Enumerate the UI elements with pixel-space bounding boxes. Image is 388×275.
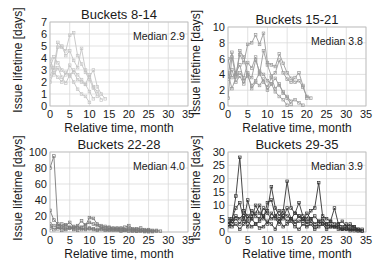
x-tick-label: 0 (225, 234, 231, 246)
x-tick-label: 0 (47, 234, 53, 246)
y-axis-label: Issue lifetime [days] (11, 135, 25, 240)
y-tick-label: 0 (41, 226, 47, 238)
y-tick-label: 15 (213, 186, 225, 198)
y-tick-label: 4 (219, 68, 225, 80)
subplot-buckets-15-21: 051015202530350246810Buckets 15-21Relati… (189, 10, 372, 135)
y-tick-label: 0 (219, 226, 225, 238)
x-axis-label: Relative time, month (64, 121, 173, 135)
subplot-title: Buckets 15-21 (255, 12, 338, 27)
y-axis-label: Issue lifetime [days] (11, 7, 25, 112)
x-tick-label: 5 (245, 108, 251, 120)
subplot-title: Buckets 22-28 (77, 137, 160, 152)
y-tick-label: 100 (29, 146, 47, 158)
x-tick-label: 30 (340, 234, 352, 246)
y-tick-label: 4 (41, 52, 47, 64)
y-tick-label: 8 (219, 37, 225, 49)
x-tick-label: 25 (320, 108, 332, 120)
x-tick-label: 15 (281, 108, 293, 120)
y-tick-label: 2 (219, 84, 225, 96)
subplot-title: Buckets 29-35 (255, 137, 338, 152)
y-tick-label: 5 (219, 213, 225, 225)
median-annotation: Median 3.8 (311, 35, 363, 47)
y-tick-label: 5 (41, 40, 47, 52)
y-tick-label: 6 (219, 53, 225, 65)
series-group (49, 32, 107, 104)
x-axis-label: Relative time, month (242, 121, 351, 135)
x-tick-label: 5 (245, 234, 251, 246)
subplot-buckets-22-28: 05101520253035020406080100Buckets 22-28R… (11, 135, 194, 261)
y-tick-label: 40 (35, 194, 47, 206)
x-tick-label: 10 (83, 234, 95, 246)
y-tick-label: 0 (219, 100, 225, 112)
series-line (50, 33, 97, 97)
x-tick-label: 0 (225, 108, 231, 120)
x-tick-label: 5 (67, 234, 73, 246)
x-axis-label: Relative time, month (242, 247, 351, 261)
y-tick-label: 60 (35, 178, 47, 190)
x-tick-label: 25 (142, 108, 154, 120)
y-axis-label: Issue lifetime [days] (189, 135, 203, 240)
y-tick-label: 20 (35, 210, 47, 222)
y-tick-label: 2 (41, 76, 47, 88)
x-tick-label: 30 (162, 108, 174, 120)
y-tick-label: 1 (41, 88, 47, 100)
y-tick-label: 7 (41, 16, 47, 28)
x-tick-label: 35 (360, 108, 372, 120)
y-tick-label: 6 (41, 28, 47, 40)
x-tick-label: 30 (162, 234, 174, 246)
x-tick-label: 15 (103, 108, 115, 120)
figure-2x2-issue-lifetime: 0510152025303501234567Buckets 8-14Relati… (0, 0, 388, 275)
y-tick-label: 80 (35, 162, 47, 174)
x-tick-label: 15 (281, 234, 293, 246)
y-tick-label: 25 (213, 159, 225, 171)
x-tick-label: 10 (83, 108, 95, 120)
x-tick-label: 20 (123, 108, 135, 120)
x-tick-label: 25 (320, 234, 332, 246)
median-annotation: Median 4.0 (133, 160, 185, 172)
median-annotation: Median 2.9 (133, 30, 185, 42)
x-tick-label: 30 (340, 108, 352, 120)
subplot-buckets-8-14: 0510152025303501234567Buckets 8-14Relati… (11, 7, 194, 135)
x-tick-label: 5 (67, 108, 73, 120)
y-tick-label: 0 (41, 100, 47, 112)
x-tick-label: 10 (261, 234, 273, 246)
x-tick-label: 35 (360, 234, 372, 246)
subplot-buckets-29-35: 05101520253035051015202530Buckets 29-35R… (189, 135, 372, 261)
median-annotation: Median 3.9 (311, 160, 363, 172)
y-tick-label: 10 (213, 21, 225, 33)
y-tick-label: 20 (213, 173, 225, 185)
x-axis-label: Relative time, month (64, 247, 173, 261)
x-tick-label: 20 (301, 108, 313, 120)
x-tick-label: 20 (301, 234, 313, 246)
x-tick-label: 20 (123, 234, 135, 246)
y-tick-label: 10 (213, 199, 225, 211)
y-tick-label: 30 (213, 146, 225, 158)
subplot-title: Buckets 8-14 (81, 7, 157, 22)
x-tick-label: 10 (261, 108, 273, 120)
x-tick-label: 0 (47, 108, 53, 120)
x-tick-label: 15 (103, 234, 115, 246)
x-tick-label: 25 (142, 234, 154, 246)
y-axis-label: Issue lifetime [days] (189, 10, 203, 115)
y-tick-label: 3 (41, 64, 47, 76)
